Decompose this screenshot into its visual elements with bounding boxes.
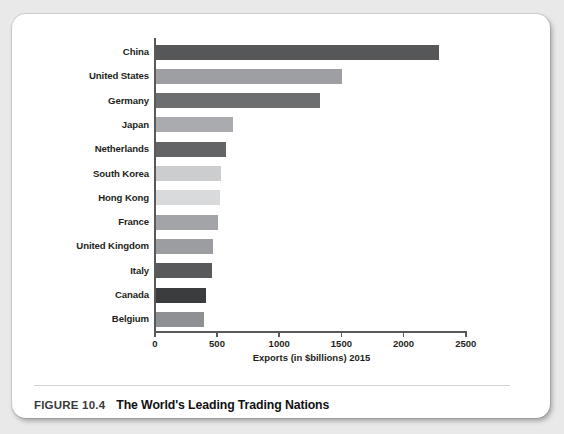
category-label-belgium: Belgium <box>12 307 149 331</box>
bar-row-japan: Japan <box>12 113 550 137</box>
x-tick-2500 <box>465 332 467 337</box>
bar-united-states <box>155 69 342 84</box>
bar-south-korea <box>155 166 221 181</box>
bar-japan <box>155 117 233 132</box>
category-label-hong-kong: Hong Kong <box>12 186 149 210</box>
x-tick-2000 <box>403 332 405 337</box>
bar-hong-kong <box>155 190 220 205</box>
category-label-italy: Italy <box>12 259 149 283</box>
bar-china <box>155 45 439 60</box>
category-label-germany: Germany <box>12 89 149 113</box>
bar-germany <box>155 93 320 108</box>
bar-netherlands <box>155 142 226 157</box>
x-tick-label-1000: 1000 <box>269 338 290 349</box>
x-tick-500 <box>216 332 218 337</box>
x-axis-line <box>154 331 467 333</box>
figure-title: The World's Leading Trading Nations <box>116 398 329 412</box>
bar-row-united-states: United States <box>12 64 550 88</box>
figure-caption: FIGURE 10.4 The World's Leading Trading … <box>34 394 528 416</box>
category-label-united-kingdom: United Kingdom <box>12 234 149 258</box>
bar-france <box>155 215 218 230</box>
bar-belgium <box>155 312 204 327</box>
plot-area: China United States Germany Japan Nether… <box>12 14 550 366</box>
bar-row-canada: Canada <box>12 283 550 307</box>
bar-row-belgium: Belgium <box>12 307 550 331</box>
bar-row-netherlands: Netherlands <box>12 137 550 161</box>
category-label-france: France <box>12 210 149 234</box>
category-label-united-states: United States <box>12 64 149 88</box>
category-label-netherlands: Netherlands <box>12 137 149 161</box>
x-tick-0 <box>154 332 156 337</box>
y-axis-line <box>154 38 156 331</box>
figure-number: FIGURE 10.4 <box>34 399 105 411</box>
bar-canada <box>155 288 206 303</box>
bar-row-south-korea: South Korea <box>12 162 550 186</box>
category-label-japan: Japan <box>12 113 149 137</box>
x-tick-label-1500: 1500 <box>331 338 352 349</box>
bar-row-hong-kong: Hong Kong <box>12 186 550 210</box>
bar-row-germany: Germany <box>12 89 550 113</box>
bar-row-united-kingdom: United Kingdom <box>12 234 550 258</box>
bar-row-france: France <box>12 210 550 234</box>
x-tick-label-2500: 2500 <box>455 338 476 349</box>
x-tick-label-2000: 2000 <box>393 338 414 349</box>
bar-row-china: China <box>12 40 550 64</box>
bar-italy <box>155 263 212 278</box>
figure-card: China United States Germany Japan Nether… <box>12 14 550 418</box>
bar-united-kingdom <box>155 239 213 254</box>
x-tick-label-500: 500 <box>209 338 225 349</box>
x-tick-1000 <box>278 332 280 337</box>
x-tick-1500 <box>341 332 343 337</box>
x-tick-label-0: 0 <box>152 338 157 349</box>
category-label-china: China <box>12 40 149 64</box>
bar-chart: China United States Germany Japan Nether… <box>12 14 550 366</box>
category-label-south-korea: South Korea <box>12 162 149 186</box>
caption-divider <box>34 385 510 386</box>
bar-row-italy: Italy <box>12 259 550 283</box>
x-axis-title: Exports (in $billions) 2015 <box>155 352 468 363</box>
category-label-canada: Canada <box>12 283 149 307</box>
